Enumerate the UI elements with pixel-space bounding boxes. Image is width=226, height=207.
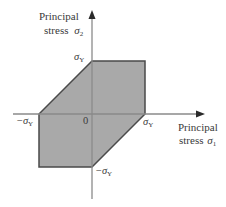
sigma1-axis-label-line2: stress σ1 (179, 134, 216, 150)
tick-top-subscript: Y (79, 56, 84, 64)
tick-label-top-sigmaY: σY (74, 51, 84, 66)
tick-label-bottom-neg-sigmaY: −σY (96, 165, 112, 180)
tick-bottom-subscript: Y (107, 170, 112, 178)
tick-label-left-neg-sigmaY: −σY (17, 115, 33, 130)
origin-label: 0 (83, 115, 88, 127)
sigma2-arrowhead-icon (89, 10, 96, 19)
tick-left-subscript: Y (28, 120, 33, 128)
sigma1-subscript: 1 (213, 140, 217, 148)
sigma1-axis-label-line1: Principal (178, 121, 218, 133)
sigma1-arrowhead-icon (196, 111, 205, 118)
sigma1-axis-stress-word: stress (179, 134, 203, 146)
tick-right-subscript: Y (148, 121, 153, 129)
sigma2-axis-label-line1: Principal (39, 10, 79, 22)
sigma2-subscript: 2 (80, 30, 84, 38)
diagram-canvas (0, 0, 226, 207)
tick-label-right-sigmaY: σY (143, 116, 153, 131)
sigma2-axis-label-line2: stress σ2 (44, 24, 83, 40)
sigma2-axis-stress-word: stress (44, 24, 68, 36)
